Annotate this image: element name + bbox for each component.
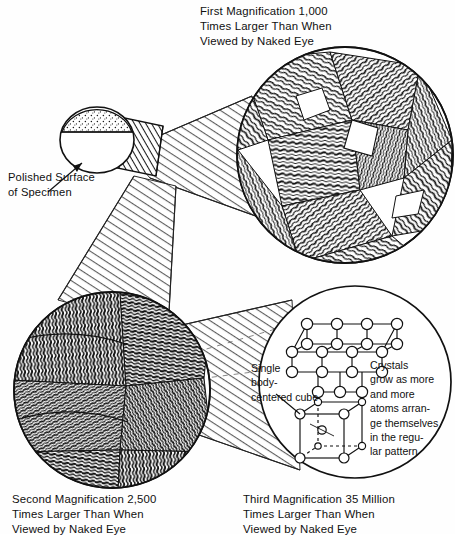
label-crystals-grow: Crystals grow as more and more atoms arr… — [370, 358, 438, 459]
caption-first-magnification: First Magnification 1,000 Times Larger T… — [200, 4, 332, 50]
caption-third-magnification: Third Magnification 35 Million Times Lar… — [243, 492, 395, 538]
label-polished-surface: Polished Surface of Specimen — [8, 170, 95, 200]
label-single-body-centered-cube: Single body- centered cube — [251, 361, 318, 404]
caption-second-magnification: Second Magnification 2,500 Times Larger … — [12, 492, 156, 538]
